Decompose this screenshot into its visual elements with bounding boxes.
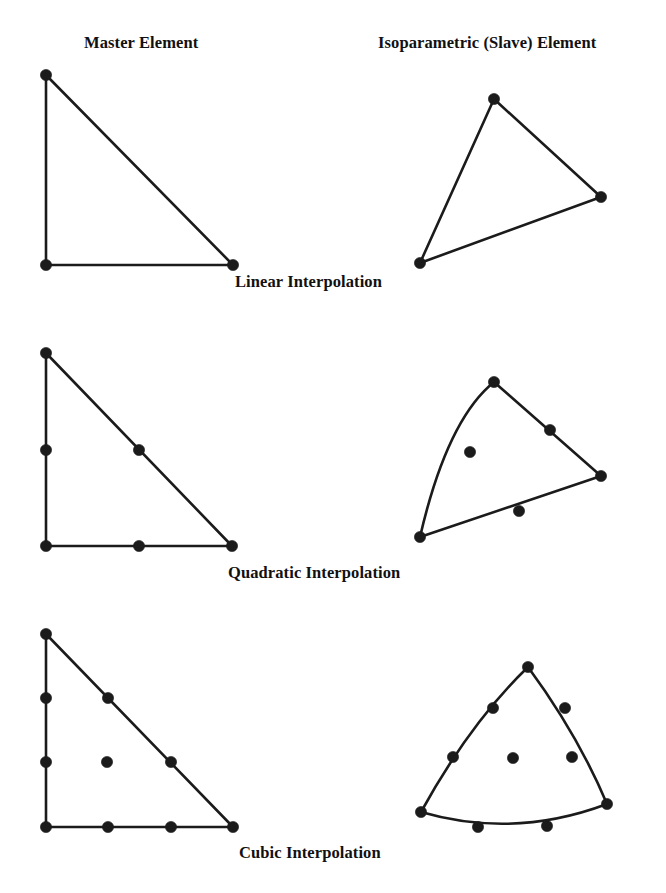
cubic-master-node-vertex-1 — [40, 628, 51, 639]
quadratic-slave-node-midside-right — [544, 424, 555, 435]
linear-master-outline — [46, 75, 233, 265]
column-header-slave-element: Isoparametric (Slave) Element — [378, 33, 596, 53]
figure-root: Master Element Isoparametric (Slave) Ele… — [0, 0, 666, 893]
cubic-master-node-vertex-2 — [40, 821, 51, 832]
cubic-slave-node-bottom-right — [541, 820, 552, 831]
quadratic-slave-node-vertex-2 — [414, 531, 425, 542]
cubic-master-node-vertex-3 — [227, 821, 238, 832]
quadratic-master-node-midside-hypot — [133, 444, 144, 455]
cubic-slave-node-vertex-2 — [415, 806, 426, 817]
cubic-master-node-hypot-lower — [165, 756, 176, 767]
cubic-master-node-bottom-left — [102, 821, 113, 832]
cubic-master-node-centroid — [101, 756, 112, 767]
cubic-slave-node-right-lower — [566, 751, 577, 762]
quadratic-slave-node-midside-bottom — [513, 505, 524, 516]
linear-master-node-vertex-3 — [227, 259, 238, 270]
cubic-slave-node-bottom-left — [472, 821, 483, 832]
cubic-slave-node-vertex-3 — [601, 798, 612, 809]
linear-master-node-vertex-1 — [40, 69, 51, 80]
row-linear-slave-element — [414, 93, 606, 268]
quadratic-slave-node-vertex-3 — [595, 470, 606, 481]
linear-slave-node-vertex-2 — [414, 257, 425, 268]
cubic-slave-node-vertex-1 — [522, 661, 533, 672]
quadratic-slave-outline — [420, 382, 601, 537]
row-quadratic-slave-element — [414, 376, 606, 542]
cubic-master-node-left-lower — [40, 756, 51, 767]
quadratic-master-node-midside-bottom — [133, 540, 144, 551]
linear-master-node-vertex-2 — [40, 259, 51, 270]
row-quadratic-master-element — [40, 347, 237, 551]
cubic-slave-node-centroid — [507, 752, 518, 763]
column-header-master-element: Master Element — [84, 33, 198, 53]
caption-quadratic-interpolation: Quadratic Interpolation — [228, 563, 400, 583]
cubic-master-node-left-upper — [40, 692, 51, 703]
linear-slave-outline — [420, 99, 601, 263]
quadratic-slave-node-vertex-1 — [488, 376, 499, 387]
quadratic-master-outline — [46, 353, 232, 546]
caption-cubic-interpolation: Cubic Interpolation — [239, 843, 381, 863]
row-linear-master-element — [40, 69, 238, 270]
cubic-slave-node-right-upper — [559, 702, 570, 713]
elements-drawing — [0, 0, 666, 893]
row-cubic-slave-element — [415, 661, 612, 832]
cubic-slave-outline — [421, 667, 607, 824]
cubic-master-outline — [46, 634, 233, 827]
cubic-slave-node-left-upper — [487, 702, 498, 713]
linear-slave-node-vertex-1 — [488, 93, 499, 104]
quadratic-master-node-vertex-1 — [40, 347, 51, 358]
quadratic-slave-node-midside-left — [464, 446, 475, 457]
quadratic-master-node-midside-left — [40, 444, 51, 455]
quadratic-master-node-vertex-2 — [40, 540, 51, 551]
row-cubic-master-element — [40, 628, 238, 832]
caption-linear-interpolation: Linear Interpolation — [235, 272, 382, 292]
cubic-slave-node-left-lower — [447, 751, 458, 762]
linear-slave-node-vertex-3 — [595, 191, 606, 202]
cubic-master-node-hypot-upper — [102, 692, 113, 703]
quadratic-master-node-vertex-3 — [226, 540, 237, 551]
cubic-master-node-bottom-right — [165, 821, 176, 832]
